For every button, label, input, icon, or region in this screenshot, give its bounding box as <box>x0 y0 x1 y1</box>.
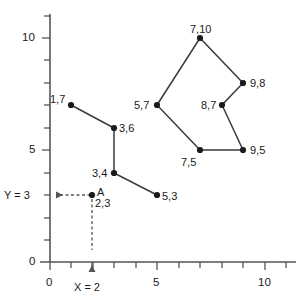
point-label-1-7: 1,7 <box>50 93 65 105</box>
y-ticks-group <box>42 16 50 240</box>
data-point-9-5[interactable] <box>240 147 246 153</box>
x-axis-tick-label-10: 10 <box>258 276 271 288</box>
point-label-7-5: 7,5 <box>181 156 196 168</box>
point-label-9-5: 9,5 <box>250 144 265 156</box>
point-label-9-8: 9,8 <box>250 77 265 89</box>
x-axis-tick-label-5: 5 <box>153 276 159 288</box>
point-label-2-3: 2,3 <box>95 197 110 209</box>
data-point-3-4[interactable] <box>111 170 117 176</box>
axes-group <box>40 14 296 262</box>
point-label-5-7: 5,7 <box>134 99 149 111</box>
y-guide-label: Y = 3 <box>4 189 30 201</box>
y-axis-tick-label-5: 5 <box>29 143 35 155</box>
data-point-5-7[interactable] <box>154 102 160 108</box>
closed-polygon-path <box>157 38 243 150</box>
guide-lines-group <box>56 192 96 273</box>
point-label-3-6: 3,6 <box>119 122 134 134</box>
data-point-3-6[interactable] <box>111 125 117 131</box>
x-ticks-group <box>50 262 286 270</box>
point-label-7-10: 7,10 <box>190 23 211 35</box>
point-label-8-7: 8,7 <box>201 99 216 111</box>
x-axis-tick-label-0: 0 <box>46 276 52 288</box>
data-point-7-10[interactable] <box>197 35 203 41</box>
data-point-8-7[interactable] <box>219 102 225 108</box>
data-point-7-5[interactable] <box>197 147 203 153</box>
y-axis-tick-label-10: 10 <box>22 31 35 43</box>
point-label-3-4: 3,4 <box>92 167 107 179</box>
data-point-1-7[interactable] <box>68 102 74 108</box>
point-label-5-3: 5,3 <box>162 190 177 202</box>
data-point-5-3[interactable] <box>154 192 160 198</box>
open-polyline-path <box>71 105 157 195</box>
y-guide-arrowhead-icon <box>56 192 63 199</box>
data-point-9-8[interactable] <box>240 80 246 86</box>
coordinate-plot: 10 5 0 0 5 10 1,7 3,6 3,4 5,3 A 2,3 5,7 … <box>0 0 301 303</box>
x-guide-label: X = 2 <box>74 281 100 293</box>
y-axis-tick-label-0: 0 <box>29 255 35 267</box>
